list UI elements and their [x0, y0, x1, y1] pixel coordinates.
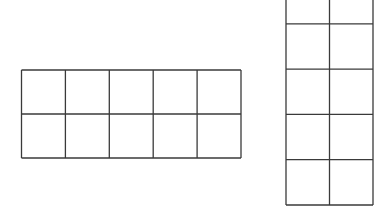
grid-cell	[286, 24, 330, 69]
vertical-grid	[286, 0, 373, 205]
grid-cell	[22, 70, 66, 114]
grid-cell	[197, 114, 241, 158]
grid-cell	[286, 114, 330, 159]
grid-cell	[153, 114, 197, 158]
diagram-canvas	[0, 0, 389, 217]
grid-cell	[22, 114, 66, 158]
grid-cell	[286, 69, 330, 114]
grid-cell	[330, 24, 374, 69]
grid-cell	[286, 160, 330, 205]
grid-cell	[330, 160, 374, 205]
grid-cell	[286, 0, 330, 24]
grid-cell	[197, 70, 241, 114]
grid-cell	[330, 114, 374, 159]
grid-cell	[65, 114, 109, 158]
grid-cell	[109, 114, 153, 158]
grid-cell	[65, 70, 109, 114]
horizontal-grid	[22, 70, 242, 158]
grid-cell	[153, 70, 197, 114]
grid-cell	[109, 70, 153, 114]
grid-cell	[330, 69, 374, 114]
grid-cell	[330, 0, 374, 24]
